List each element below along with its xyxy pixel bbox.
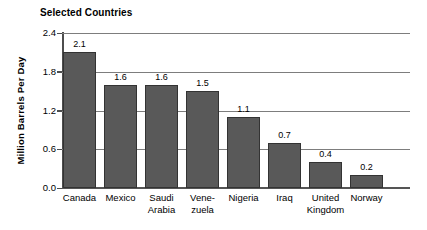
plot-area: 2.11.61.61.51.10.70.40.2 [62,33,410,188]
bar [309,162,342,188]
y-axis-tick-label: 0.6 [32,144,56,154]
bar-value-label: 0.2 [347,163,387,172]
bar [350,175,383,188]
bar-value-label: 1.1 [224,105,264,114]
bar [268,143,301,188]
y-axis-tick [57,33,62,35]
y-axis-tick-labels: 0.00.61.21.82.4 [31,33,56,188]
bar-value-label: 1.6 [101,73,141,82]
y-axis-tick [57,71,62,73]
y-axis-tick [57,149,62,151]
x-axis-category-labels: CanadaMexicoSaudiArabiaVene-zuelaNigeria… [62,192,410,228]
y-axis-tick-label: 1.2 [32,106,56,116]
y-axis-tick [57,188,62,190]
x-axis-category-label: Norway [339,192,395,204]
bar-value-label: 2.1 [60,40,100,49]
bar [186,91,219,188]
y-axis-title: Million Barrels Per Day [14,33,28,188]
bar [145,85,178,188]
gridline [62,33,410,34]
bar-value-label: 1.5 [183,79,223,88]
x-axis-label-line: Norway [339,192,395,204]
x-axis-label-line: Kingdom [298,204,354,216]
y-axis-tick-label: 2.4 [32,28,56,38]
bar [104,85,137,188]
bar-value-label: 0.7 [265,131,305,140]
bar-value-label: 0.4 [306,150,346,159]
chart-title: Selected Countries [40,7,132,18]
bar-chart: Selected Countries Million Barrels Per D… [0,0,427,230]
bar [227,117,260,188]
y-axis-tick-label: 1.8 [32,67,56,77]
x-axis-label-line: zuela [175,204,231,216]
bar [63,52,96,188]
bar-value-label: 1.6 [142,73,182,82]
y-axis-tick [57,110,62,112]
